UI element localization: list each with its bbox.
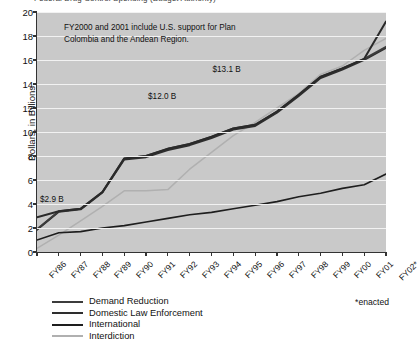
x-tick-mark (80, 252, 81, 256)
gridline (37, 132, 386, 133)
x-tick-mark (189, 252, 190, 256)
y-tick-label: 20 (3, 7, 33, 18)
data-point-label: $13.1 B (213, 65, 241, 74)
legend-item[interactable]: International (52, 319, 203, 331)
chart-annotation-line: Colombia and the Andean Region. (64, 34, 236, 46)
x-tick-label: FY00 (352, 259, 373, 280)
y-tick-mark (33, 155, 37, 156)
x-tick-label: FY99 (330, 259, 351, 280)
legend-swatch (52, 312, 83, 314)
x-tick-label: FY96 (265, 259, 286, 280)
y-tick-mark (33, 227, 37, 228)
plot-area (36, 12, 386, 253)
x-tick-label: FY94 (221, 259, 242, 280)
gridline (37, 156, 386, 157)
gridline (37, 12, 386, 13)
legend-label: International (89, 319, 140, 331)
legend-swatch (52, 335, 83, 337)
y-tick-mark (33, 59, 37, 60)
x-tick-mark (385, 252, 386, 256)
x-tick-mark (320, 252, 321, 256)
legend-label: Interdiction (89, 331, 134, 343)
x-tick-label: FY90 (134, 259, 155, 280)
x-tick-mark (36, 252, 37, 256)
x-tick-mark (342, 252, 343, 256)
x-tick-mark (364, 252, 365, 256)
y-tick-label: 18 (3, 31, 33, 42)
x-tick-mark (276, 252, 277, 256)
x-tick-label: FY97 (287, 259, 308, 280)
x-tick-mark (298, 252, 299, 256)
x-tick-mark (124, 252, 125, 256)
gridline (37, 60, 386, 61)
x-tick-mark (102, 252, 103, 256)
y-tick-label: 4 (3, 199, 33, 210)
x-tick-mark (211, 252, 212, 256)
data-point-label: $12.0 B (148, 92, 176, 101)
plot-inner (37, 12, 386, 252)
y-tick-mark (33, 35, 37, 36)
y-tick-mark (33, 11, 37, 12)
x-tick-label: FY92 (178, 259, 199, 280)
x-tick-label: FY91 (156, 259, 177, 280)
y-tick-mark (33, 179, 37, 180)
y-tick-label: 6 (3, 175, 33, 186)
x-tick-label: FY86 (47, 259, 68, 280)
footnote: *enacted (355, 297, 389, 307)
legend-swatch (52, 324, 83, 326)
legend-label: Domestic Law Enforcement (89, 308, 203, 320)
gridline (37, 180, 386, 181)
x-tick-label: FY95 (243, 259, 264, 280)
x-tick-mark (58, 252, 59, 256)
x-tick-label: FY87 (69, 259, 90, 280)
legend-item[interactable]: Domestic Law Enforcement (52, 308, 203, 320)
y-tick-label: 10 (3, 127, 33, 138)
y-tick-label: 12 (3, 103, 33, 114)
x-tick-mark (233, 252, 234, 256)
gridline (37, 204, 386, 205)
x-tick-label: FY93 (200, 259, 221, 280)
x-tick-mark (167, 252, 168, 256)
legend-label: Demand Reduction (89, 296, 169, 308)
x-tick-label: FY89 (112, 259, 133, 280)
gridline (37, 108, 386, 109)
legend-swatch (52, 301, 83, 303)
y-tick-mark (33, 131, 37, 132)
legend-item[interactable]: Interdiction (52, 331, 203, 343)
chart-annotation: FY2000 and 2001 include U.S. support for… (64, 22, 236, 46)
chart-title: Federal Drug Control Spending (Budget Au… (34, 0, 216, 3)
y-tick-mark (33, 203, 37, 204)
y-axis-tick-labels: 02468101214161820 (0, 0, 33, 349)
x-tick-mark (255, 252, 256, 256)
y-tick-label: 8 (3, 151, 33, 162)
y-tick-mark (33, 107, 37, 108)
gridline (37, 84, 386, 85)
y-tick-label: 16 (3, 55, 33, 66)
x-tick-label: FY01 (374, 259, 395, 280)
chart-annotation-line: FY2000 and 2001 include U.S. support for… (64, 22, 236, 34)
y-tick-label: 2 (3, 223, 33, 234)
x-tick-label: FY98 (309, 259, 330, 280)
x-tick-label: FY02* (397, 259, 420, 283)
y-tick-mark (33, 83, 37, 84)
chart-legend: Demand ReductionDomestic Law Enforcement… (52, 296, 203, 342)
y-tick-label: 0 (3, 247, 33, 258)
x-tick-label: FY88 (90, 259, 111, 280)
series-line-international (37, 174, 386, 240)
series-line-interdiction (37, 38, 386, 248)
data-point-label: $2.9 B (40, 195, 64, 204)
series-line-total (37, 22, 386, 218)
x-tick-mark (145, 252, 146, 256)
legend-item[interactable]: Demand Reduction (52, 296, 203, 308)
y-tick-label: 14 (3, 79, 33, 90)
gridline (37, 228, 386, 229)
